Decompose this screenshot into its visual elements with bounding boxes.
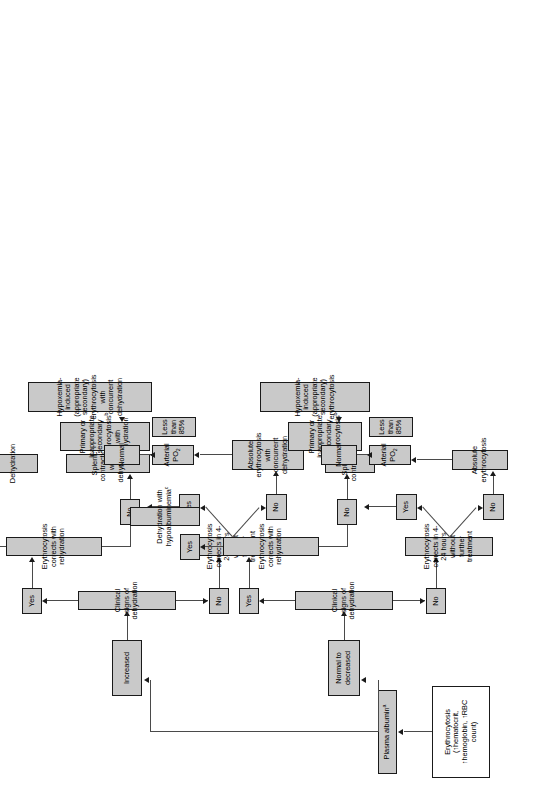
node-arterial-po2-top-label: Arterial PO bbox=[162, 443, 180, 466]
node-increased-label: Increased bbox=[123, 652, 132, 684]
node-hypoxemia-bottom: Hypoxemia-induced (appropriate secondary… bbox=[260, 382, 370, 412]
node-absolute-eryth-top-label: Absolute erythrocytosis with concurrent … bbox=[247, 433, 290, 478]
arrow-rehydration-bottom-to-yes2 bbox=[200, 544, 205, 550]
node-less-than-85-bottom: Less than 85% bbox=[369, 417, 413, 437]
conn-no3-out-bottom bbox=[493, 474, 494, 494]
arrow-no2-out-top bbox=[127, 474, 133, 479]
arrow-no3-out-bottom bbox=[490, 471, 496, 476]
po2-subscript-bottom: 2 bbox=[392, 448, 398, 451]
conn-yes1-to-rehydration-bottom bbox=[249, 560, 250, 588]
node-clinical-signs-bottom: Clinical signs of dehydration bbox=[295, 591, 393, 610]
node-yes-1-bottom-label: Yes bbox=[245, 595, 254, 607]
conn-absolute-to-po2-top bbox=[200, 454, 232, 455]
node-no-3-top: No bbox=[266, 494, 287, 520]
arrow-absolute-to-po2-bottom bbox=[411, 457, 416, 463]
arrow-4-24-yes-top bbox=[200, 505, 205, 511]
node-corrects-rehydration-bottom-label: Erythrocytosis corrects with rehydration bbox=[258, 524, 284, 570]
conn-bus-to-increased bbox=[150, 680, 151, 732]
node-dehydration-hypoalbuminemia-bottom: Dehydration with hypoalbuminemiac bbox=[130, 507, 200, 526]
node-dehydration-top-label: Dehydration bbox=[9, 444, 18, 483]
arrow-bus-to-normal-decreased bbox=[361, 677, 366, 683]
arrow-signs-top-no bbox=[203, 598, 208, 604]
conn-signs-top-split bbox=[46, 600, 78, 601]
conn-bus-to-normal-decreased bbox=[378, 680, 379, 732]
node-clinical-signs-bottom-label: Clinical signs of dehydration bbox=[331, 581, 357, 619]
arrow-normal-to-primary-bottom bbox=[336, 417, 342, 422]
arrow-yes1-to-rehydration-top bbox=[29, 557, 35, 562]
footnote-marker-a: a bbox=[381, 705, 387, 708]
node-absolute-eryth-bottom-label: Absolute erythrocytosis bbox=[471, 438, 488, 483]
flowchart-canvas: Erythrocytosis (↑hematocrit, ↑hemoglobin… bbox=[0, 0, 556, 796]
arrow-yes3-up-bottom bbox=[364, 504, 369, 510]
node-plasma-albumin-label: Plasma albumin bbox=[382, 707, 391, 759]
arrow-bus-to-increased bbox=[144, 677, 149, 683]
conn-albumin-bus bbox=[150, 731, 378, 732]
node-yes-1-bottom: Yes bbox=[239, 588, 259, 614]
arrow-po2-to-normal-bottom bbox=[367, 452, 372, 458]
node-corrects-4-24-bottom: Erythrocytosis corrects in 4-24 hours wi… bbox=[405, 537, 493, 556]
node-hypoxemia-bottom-label: Hypoxemia-induced (appropriate secondary… bbox=[294, 375, 337, 420]
node-no-3-bottom: No bbox=[483, 494, 504, 520]
conn-rehydration-top-no2-h bbox=[130, 525, 131, 547]
conn-rehydration-bottom-no2-h bbox=[347, 525, 348, 547]
node-dehydration-top: Dehydration bbox=[0, 454, 38, 473]
node-arterial-po2-bottom-label: Arterial PO bbox=[379, 443, 397, 466]
node-start: Erythrocytosis (↑hematocrit, ↑hemoglobin… bbox=[432, 686, 490, 778]
node-clinical-signs-top: Clinical signs of dehydration bbox=[78, 591, 176, 610]
conn-rehydration-top-to-no2 bbox=[102, 546, 130, 547]
node-no-2-bottom: No bbox=[337, 499, 357, 525]
conn-no2-out-top bbox=[130, 477, 131, 499]
node-normal-to-decreased-label: Normal to decreased bbox=[335, 643, 352, 693]
node-start-label: Erythrocytosis (↑hematocrit, ↑hemoglobin… bbox=[444, 689, 478, 775]
conn-rehydration-top-to-yes2 bbox=[0, 546, 6, 547]
node-corrects-4-24-bottom-label: Erythrocytosis corrects in 4-24 hours wi… bbox=[423, 524, 475, 570]
arrow-signs-bottom-no bbox=[420, 598, 425, 604]
node-no-1-bottom: No bbox=[426, 588, 446, 614]
node-corrects-rehydration-top-label: Erythrocytosis corrects with rehydration bbox=[41, 524, 67, 570]
arrow-start-to-albumin bbox=[398, 729, 403, 735]
figure-caption-strip bbox=[542, 505, 555, 790]
node-no-3-top-label: No bbox=[272, 502, 281, 511]
node-no-1-top: No bbox=[209, 588, 229, 614]
conn-signs-bottom-split-up bbox=[263, 600, 295, 601]
node-corrects-rehydration-bottom: Erythrocytosis corrects with rehydration bbox=[223, 537, 319, 556]
arrow-yes1-to-rehydration-bottom bbox=[246, 557, 252, 562]
node-increased: Increased bbox=[112, 640, 142, 696]
node-no-3-bottom-label: No bbox=[489, 502, 498, 511]
conn-yes3-up-bottom bbox=[369, 506, 396, 507]
node-normal-top-label: Normal bbox=[118, 443, 127, 467]
arrow-po2-to-normal-top bbox=[150, 452, 155, 458]
node-corrects-rehydration-top: Erythrocytosis corrects with rehydration bbox=[6, 537, 102, 556]
node-normal-bottom-label: Normal bbox=[335, 443, 344, 467]
node-hypoxemia-top: Hypoxemia-induced (appropriate secondary… bbox=[28, 382, 152, 412]
node-hypoxemia-top-label: Hypoxemia-induced (appropriate secondary… bbox=[56, 375, 125, 420]
node-normal-top: Normal bbox=[104, 445, 140, 465]
node-arterial-po2-bottom: Arterial PO2 bbox=[369, 445, 411, 465]
footnote-marker-c: c bbox=[163, 487, 169, 490]
node-less-than-85-top: Less than 85% bbox=[152, 417, 196, 437]
conn-absolute-to-po2-bottom bbox=[417, 459, 452, 460]
node-no-1-top-label: No bbox=[215, 596, 224, 605]
node-no-1-bottom-label: No bbox=[432, 596, 441, 605]
node-yes-3-bottom-label: Yes bbox=[402, 501, 411, 513]
conn-yes1-to-rehydration-top bbox=[32, 560, 33, 588]
arrow-signs-top-yes bbox=[42, 598, 47, 604]
node-less-than-85-top-label: Less than 85% bbox=[161, 419, 187, 434]
conn-rehydration-bottom-to-no2 bbox=[319, 546, 347, 547]
node-yes-1-top-label: Yes bbox=[28, 595, 37, 607]
node-yes-1-top: Yes bbox=[22, 588, 42, 614]
node-arterial-po2-top: Arterial PO2 bbox=[152, 445, 194, 465]
node-clinical-signs-top-label: Clinical signs of dehydration bbox=[114, 581, 140, 619]
conn-start-to-albumin bbox=[404, 731, 432, 732]
arrow-signs-bottom-yes bbox=[259, 598, 264, 604]
arrow-4-24-yes-bottom bbox=[417, 505, 422, 511]
node-normal-bottom: Normal bbox=[321, 445, 357, 465]
node-no-2-bottom-label: No bbox=[343, 507, 352, 516]
node-yes-2-bottom: Yes bbox=[180, 534, 200, 560]
node-less-than-85-bottom-label: Less than 85% bbox=[378, 419, 404, 434]
node-yes-3-bottom: Yes bbox=[396, 494, 417, 520]
node-normal-to-decreased: Normal to decreased bbox=[328, 640, 360, 696]
node-plasma-albumin: Plasma albumina bbox=[378, 690, 397, 774]
figure-rotator: Erythrocytosis (↑hematocrit, ↑hemoglobin… bbox=[0, 0, 556, 796]
node-yes-2-bottom-label: Yes bbox=[186, 541, 195, 553]
